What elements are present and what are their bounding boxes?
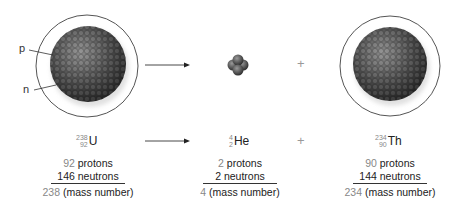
thorium-element: Th (388, 134, 402, 148)
thorium-mass-row: 234 (mass number) (340, 186, 440, 199)
thorium-protons-count: 90 (365, 157, 377, 169)
helium-mass-label: (mass number) (209, 186, 280, 198)
thorium-nucleon-count: 90 protons 144 neutrons 234 (mass number… (340, 157, 440, 199)
helium-element: He (234, 134, 249, 148)
helium-protons-row: 2 protons (190, 157, 290, 170)
uranium-mass-label: (mass number) (63, 186, 134, 198)
uranium-element: U (89, 134, 98, 148)
uranium-mass-row: 238 (mass number) (38, 186, 138, 199)
plus-sign-bottom: + (297, 133, 305, 148)
helium-nucleon-count: 2 protons 2 neutrons 4 (mass number) (190, 157, 290, 199)
thorium-neutrons-label: neutrons (380, 170, 421, 182)
helium-mass-number: 4 (229, 134, 233, 141)
uranium-mass-value: 238 (42, 186, 60, 198)
reaction-arrow-top (145, 63, 190, 68)
uranium-protons-count: 92 (63, 157, 75, 169)
neutron-label: n (23, 83, 29, 95)
helium-mass-row: 4 (mass number) (190, 186, 290, 199)
uranium-neutrons-count: 146 (57, 170, 75, 182)
reaction-arrow-bottom (145, 139, 190, 144)
helium-symbol: 42He (229, 134, 249, 149)
thorium-mass-label: (mass number) (365, 186, 436, 198)
thorium-neutrons-count: 144 (359, 170, 377, 182)
uranium-protons-label: protons (78, 157, 113, 169)
uranium-nucleon-count: 92 protons 146 neutrons 238 (mass number… (38, 157, 138, 199)
thorium-isotope-numbers: 23490 (375, 134, 387, 148)
thorium-neutrons-row: 144 neutrons (353, 170, 426, 184)
helium-mass-value: 4 (200, 186, 206, 198)
uranium-isotope-numbers: 23892 (76, 134, 88, 148)
thorium-mass-value: 234 (344, 186, 362, 198)
helium-protons-label: protons (227, 157, 262, 169)
thorium-symbol: 23490Th (375, 134, 402, 149)
uranium-neutrons-row: 146 neutrons (51, 170, 124, 184)
uranium-atomic-number: 92 (80, 141, 88, 148)
helium-nucleus (228, 55, 249, 76)
helium-neutrons-count: 2 (215, 170, 221, 182)
thorium-mass-number: 234 (375, 134, 387, 141)
uranium-nucleus (36, 15, 138, 117)
thorium-nucleus (340, 16, 440, 116)
thorium-atomic-number: 90 (379, 141, 387, 148)
uranium-symbol: 23892U (76, 134, 97, 149)
thorium-protons-row: 90 protons (340, 157, 440, 170)
uranium-neutrons-label: neutrons (78, 170, 119, 182)
helium-neutrons-row: 2 neutrons (203, 170, 277, 184)
uranium-protons-row: 92 protons (38, 157, 138, 170)
helium-atomic-number: 2 (229, 141, 233, 148)
uranium-mass-number: 238 (76, 134, 88, 141)
helium-neutrons-label: neutrons (224, 170, 265, 182)
helium-protons-count: 2 (218, 157, 224, 169)
thorium-protons-label: protons (380, 157, 415, 169)
plus-sign-top: + (297, 56, 305, 71)
proton-label: p (19, 42, 25, 54)
helium-isotope-numbers: 42 (229, 134, 233, 148)
